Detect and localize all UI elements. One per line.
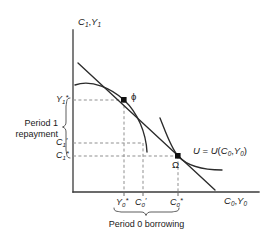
utility-curve-label: U = U(C0,Y0) xyxy=(193,146,247,157)
omega-point-label: Ω xyxy=(172,160,179,171)
x-tick-c0s-sup: * xyxy=(180,196,183,205)
x-axis-label: C0,Y0 xyxy=(224,196,247,207)
intertemporal-consumption-diagram: C1,Y1 C0,Y0 Y1* C1′ C1* Y0* C0′ C0* ϕ Ω … xyxy=(0,0,270,245)
x-axis-label-c-sub: 0 xyxy=(231,200,235,207)
period-1-repayment-label: Period 1 repayment xyxy=(0,118,58,140)
x-tick-c0p-sup: ′ xyxy=(145,196,146,205)
y-axis-label-c: C xyxy=(78,16,85,27)
utility-label-equals: = xyxy=(200,145,211,156)
y-axis-label-y-sub: 1 xyxy=(97,21,101,28)
x-tick-c0s-base: C xyxy=(170,197,177,207)
y-tick-label-y1-star: Y1* xyxy=(56,94,68,104)
omega-point-marker xyxy=(175,153,181,159)
period-1-repayment-line2: repayment xyxy=(0,129,58,140)
utility-label-y-sub: 0 xyxy=(240,150,244,157)
x-axis-label-y-sub: 0 xyxy=(243,200,247,207)
y-tick-c1s-base: C xyxy=(56,150,63,160)
period-0-borrowing-brace xyxy=(114,208,179,216)
x-axis-label-c: C xyxy=(224,195,231,206)
utility-label-u: U xyxy=(193,145,200,156)
period-0-borrowing-label: Period 0 borrowing xyxy=(96,219,197,229)
axes-group xyxy=(73,30,259,192)
y-tick-c1p-sup: ′ xyxy=(66,136,67,145)
budget-line xyxy=(78,63,215,190)
y-tick-label-c1-star: C1* xyxy=(56,150,69,160)
indifference-curve xyxy=(160,118,222,170)
y-tick-c1s-sup: * xyxy=(66,149,69,158)
y-axis-label: C1,Y1 xyxy=(78,17,101,28)
dashed-guides-group xyxy=(73,100,178,192)
utility-label-c-sub: 0 xyxy=(228,150,232,157)
x-tick-label-y0-star: Y0* xyxy=(116,197,128,207)
y-tick-y1-sup: * xyxy=(65,93,68,102)
x-tick-y0-sup: * xyxy=(125,196,128,205)
utility-label-c: C xyxy=(221,145,228,156)
utility-label-close: ) xyxy=(244,145,247,156)
y-axis-label-c-sub: 1 xyxy=(85,21,89,28)
utility-label-u2: U xyxy=(211,145,218,156)
x-tick-c0p-base: C xyxy=(135,197,142,207)
period-1-repayment-line1: Period 1 xyxy=(0,118,58,129)
x-tick-label-c0-prime: C0′ xyxy=(135,197,146,207)
phi-point-label: ϕ xyxy=(131,92,136,103)
phi-point-marker xyxy=(121,97,127,103)
x-tick-label-c0-star: C0* xyxy=(170,197,183,207)
